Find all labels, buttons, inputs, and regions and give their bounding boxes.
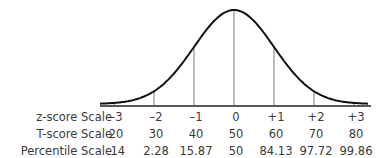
scale-label: T-score Scale — [36, 127, 112, 141]
scale-value: .14 — [107, 144, 125, 158]
sd-lines — [114, 10, 354, 106]
scale-value: 30 — [149, 127, 164, 141]
scale-value: –1 — [189, 110, 202, 124]
scale-value: 50 — [229, 144, 244, 158]
scale-label: z-score Scale — [36, 110, 112, 124]
scale-value: +1 — [268, 110, 285, 124]
scale-value: 60 — [269, 127, 284, 141]
scale-value: +2 — [308, 110, 325, 124]
scale-value: 15.87 — [180, 144, 213, 158]
scale-value: –2 — [149, 110, 162, 124]
scale-value: 0 — [232, 110, 239, 124]
scale-value: –3 — [109, 110, 122, 124]
scale-value: 40 — [189, 127, 204, 141]
scale-value: 99.86 — [340, 144, 373, 158]
scale-value: 70 — [309, 127, 324, 141]
scale-value: 50 — [229, 127, 244, 141]
scale-value: 97.72 — [300, 144, 333, 158]
scale-value: 2.28 — [143, 144, 169, 158]
scale-label: Percentile Scale — [21, 144, 112, 158]
scale-value: 80 — [349, 127, 364, 141]
scale-value: 84.13 — [260, 144, 293, 158]
scale-value: 20 — [109, 127, 124, 141]
scale-value: +3 — [348, 110, 365, 124]
